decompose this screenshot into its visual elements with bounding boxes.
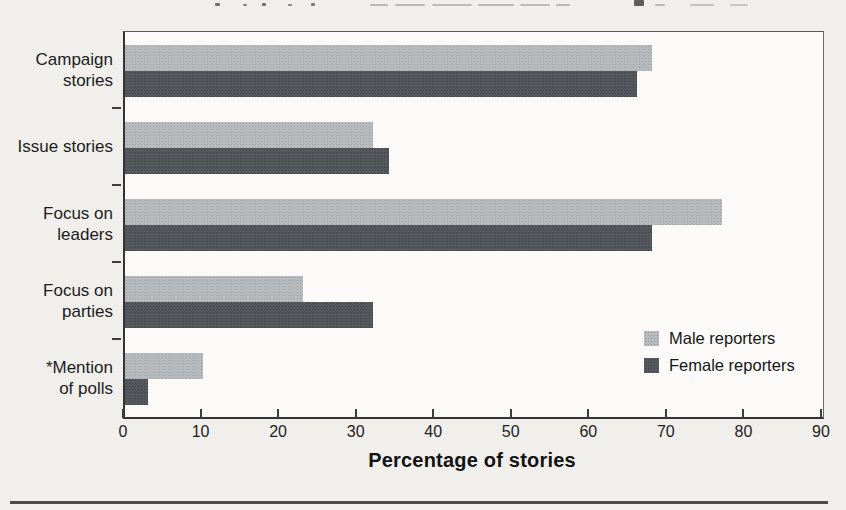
- bar-female: [125, 379, 148, 405]
- x-axis-tick: [665, 409, 667, 418]
- x-tick-label: 40: [411, 423, 455, 441]
- bar-female: [125, 225, 652, 251]
- legend-label: Female reporters: [669, 356, 795, 375]
- bar-male: [125, 276, 303, 302]
- x-axis-tick: [742, 409, 744, 418]
- bar-female: [125, 148, 389, 174]
- y-axis-tick: [112, 107, 121, 109]
- male-reporters-swatch: [644, 331, 659, 346]
- cropped-text-fragments: [0, 0, 846, 8]
- x-axis-tick: [510, 409, 512, 418]
- x-tick-label: 60: [566, 423, 610, 441]
- legend-label: Male reporters: [669, 329, 775, 348]
- female-reporters-swatch: [644, 358, 659, 373]
- legend: Male reporters Female reporters: [644, 327, 795, 381]
- x-axis-tick: [432, 409, 434, 418]
- x-axis-tick: [587, 409, 589, 418]
- figure: CampaignstoriesIssue storiesFocus onlead…: [0, 0, 846, 510]
- category-label: Campaignstories: [0, 48, 113, 91]
- legend-item-male: Male reporters: [644, 327, 795, 349]
- x-axis-tick: [820, 409, 822, 418]
- x-axis-tick: [355, 409, 357, 418]
- bottom-rule: [10, 501, 828, 504]
- category-label: Focus onleaders: [0, 202, 113, 245]
- bar-male: [125, 199, 722, 225]
- x-tick-label: 50: [489, 423, 533, 441]
- category-label: Focus onparties: [0, 279, 113, 322]
- x-tick-label: 30: [334, 423, 378, 441]
- category-label: Issue stories: [0, 136, 113, 157]
- x-tick-label: 10: [179, 423, 223, 441]
- legend-item-female: Female reporters: [644, 354, 795, 376]
- x-tick-label: 0: [101, 423, 145, 441]
- x-tick-label: 20: [256, 423, 300, 441]
- bar-male: [125, 353, 203, 379]
- bar-female: [125, 302, 373, 328]
- bar-male: [125, 45, 652, 71]
- y-axis-tick: [112, 261, 121, 263]
- x-axis-tick: [122, 409, 124, 418]
- y-axis-tick: [112, 338, 121, 340]
- x-axis-tick: [200, 409, 202, 418]
- x-tick-label: 80: [721, 423, 765, 441]
- bar-male: [125, 122, 373, 148]
- category-label: *Mentionof polls: [0, 356, 113, 399]
- x-tick-label: 90: [799, 423, 843, 441]
- x-axis-title: Percentage of stories: [123, 449, 821, 472]
- y-axis-tick: [112, 184, 121, 186]
- x-tick-label: 70: [644, 423, 688, 441]
- bar-female: [125, 71, 637, 97]
- x-axis-tick: [277, 409, 279, 418]
